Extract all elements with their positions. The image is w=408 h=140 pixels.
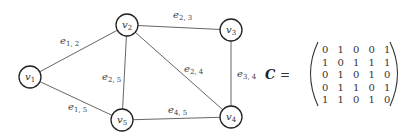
matrix-cells: 0100110111010100110111010 — [322, 44, 390, 105]
edge-v2-v5 — [122, 25, 127, 120]
matrix-cell: 1 — [322, 94, 328, 105]
matrix-cell: 1 — [338, 44, 344, 55]
matrix-cell: 0 — [353, 44, 359, 55]
matrix-cell: 0 — [369, 44, 375, 55]
matrix-cell: 1 — [384, 57, 390, 68]
node-v1: v1 — [19, 66, 41, 88]
matrix-cell: 0 — [353, 69, 359, 80]
matrix-cell: 0 — [353, 94, 359, 105]
edge-v2-v3 — [127, 25, 231, 30]
matrix-cell: 1 — [322, 57, 328, 68]
left-paren — [311, 42, 319, 106]
matrix-cell: 0 — [322, 44, 328, 55]
matrix-cell: 0 — [338, 57, 344, 68]
edge-v2-v4 — [127, 25, 231, 117]
node-v2: v2 — [116, 14, 138, 36]
edge-v1-v2 — [30, 25, 127, 77]
edge-label: e3, 4 — [237, 68, 257, 81]
matrix-cell: 0 — [322, 69, 328, 80]
edge-label: e1, 5 — [68, 101, 87, 114]
node-v3: v3 — [220, 19, 242, 41]
matrix-cell: 0 — [369, 82, 375, 93]
matrix-cell: 1 — [338, 82, 344, 93]
matrix-cell: 1 — [384, 82, 390, 93]
edge-label: e2, 3 — [173, 9, 192, 22]
node-v4: v4 — [220, 106, 242, 128]
edge-v5-v4 — [122, 117, 231, 120]
matrix-cell: 0 — [384, 94, 390, 105]
graph-diagram: e1, 2e1, 5e2, 3e2, 5e2, 4e3, 4e4, 5 v1v2… — [0, 0, 408, 140]
edge-label: e2, 5 — [102, 71, 121, 84]
edge-label: e4, 5 — [168, 104, 187, 117]
matrix-cell: 1 — [353, 82, 359, 93]
adjacency-matrix: C = 0100110111010100110111010 — [265, 42, 398, 106]
matrix-name: C — [265, 67, 276, 82]
matrix-cell: 1 — [338, 94, 344, 105]
matrix-cell: 1 — [338, 69, 344, 80]
edge-label: e2, 4 — [184, 63, 204, 76]
node-v5: v5 — [111, 109, 133, 131]
right-paren — [390, 42, 398, 106]
matrix-cell: 1 — [369, 69, 375, 80]
matrix-cell: 1 — [384, 44, 390, 55]
matrix-cell: 0 — [384, 69, 390, 80]
matrix-cell: 1 — [369, 94, 375, 105]
edge-label: e1, 2 — [60, 35, 79, 48]
matrix-equals-sign: = — [280, 68, 290, 82]
matrix-cell: 1 — [369, 57, 375, 68]
graph-nodes: v1v2v3v4v5 — [19, 14, 242, 131]
matrix-cell: 0 — [322, 82, 328, 93]
matrix-cell: 1 — [353, 57, 359, 68]
